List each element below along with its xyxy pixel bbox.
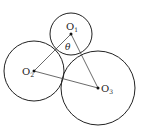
label-o3: O3 [101,83,113,95]
center-dot-o3 [97,87,100,90]
angle-theta-label: θ [65,42,71,52]
label-o2: O2 [22,66,34,78]
three-circles-diagram: O1 O2 O3 θ [0,0,143,137]
label-o1: O1 [66,21,78,33]
segment-o1-o2 [34,34,71,71]
segment-o2-o3 [34,71,98,88]
segment-o1-o3 [71,34,98,88]
center-dot-o1 [70,33,73,36]
